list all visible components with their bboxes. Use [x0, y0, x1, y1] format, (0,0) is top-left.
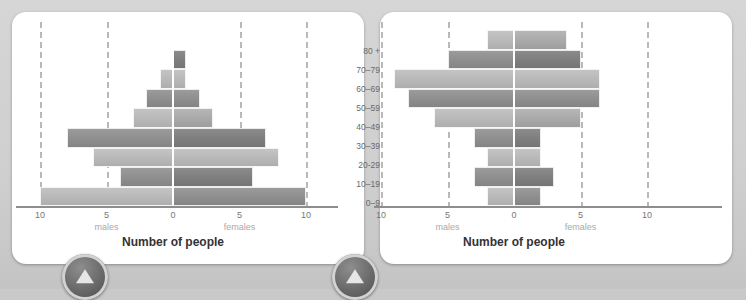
bar-male: [133, 108, 173, 128]
bar-female: [173, 69, 186, 89]
x-tick-label: 5: [220, 210, 260, 220]
bar-male: [40, 187, 173, 207]
bar-male: [474, 167, 514, 187]
x-axis-title: Number of people: [414, 235, 614, 249]
bar-female: [514, 89, 600, 109]
bar-female: [514, 187, 541, 207]
population-pyramid-right: 1050510malesfemalesNumber of people: [380, 12, 732, 264]
bar-female: [173, 108, 213, 128]
x-tick-label: 5: [561, 210, 601, 220]
bar-female: [173, 167, 253, 187]
population-pyramid-left: 1050510malesfemalesNumber of people: [12, 12, 364, 264]
bar-female: [514, 108, 581, 128]
females-label: females: [551, 222, 611, 232]
bar-male: [434, 108, 514, 128]
bar-male: [408, 89, 514, 109]
bar-male: [160, 69, 173, 89]
age-group-label: 30–39: [334, 137, 380, 156]
bar-female: [173, 187, 306, 207]
age-group-label: 70–79: [334, 61, 380, 80]
gridline: [581, 22, 583, 208]
bar-male: [67, 128, 173, 148]
bar-female: [173, 148, 279, 168]
badge-left[interactable]: [62, 254, 108, 300]
bar-female: [173, 50, 186, 70]
bar-male: [146, 89, 173, 109]
bar-female: [514, 30, 567, 50]
gridline: [40, 22, 42, 208]
bar-male: [474, 128, 514, 148]
x-tick-label: 5: [87, 210, 127, 220]
up-arrow-icon: [76, 269, 94, 283]
males-label: males: [77, 222, 137, 232]
zero-axis-line: [172, 26, 174, 206]
age-group-label: 10–19: [334, 175, 380, 194]
bar-female: [514, 50, 581, 70]
bar-male: [487, 30, 514, 50]
bar-male: [448, 50, 515, 70]
x-tick-label: 0: [153, 210, 193, 220]
x-axis-line: [374, 206, 722, 208]
x-tick-label: 10: [627, 210, 667, 220]
age-group-label: 20-29: [334, 156, 380, 175]
age-group-labels-left: 80 +70–7960–6950–5940–4930–3920-2910–190…: [334, 42, 380, 213]
bar-male: [120, 167, 173, 187]
badge-right[interactable]: [332, 254, 378, 300]
x-axis-line: [16, 206, 338, 208]
zero-axis-line: [513, 26, 515, 206]
up-arrow-icon: [346, 269, 364, 283]
bar-female: [173, 89, 200, 109]
bar-female: [173, 128, 266, 148]
chart-card-left: 1050510malesfemalesNumber of people 80 +…: [12, 12, 364, 264]
bar-male: [487, 187, 514, 207]
gridline: [107, 22, 109, 208]
chart-card-right: 1050510malesfemalesNumber of people: [380, 12, 732, 264]
bar-male: [394, 69, 514, 89]
age-group-label: 80 +: [334, 42, 380, 61]
males-label: males: [418, 222, 478, 232]
gridline: [647, 22, 649, 208]
age-group-label: 60–69: [334, 80, 380, 99]
x-tick-label: 0: [494, 210, 534, 220]
x-axis-title: Number of people: [73, 235, 273, 249]
x-tick-label: 10: [20, 210, 60, 220]
bar-female: [514, 128, 541, 148]
age-group-label: 40–49: [334, 118, 380, 137]
bar-male: [93, 148, 173, 168]
gridline: [381, 22, 383, 208]
bar-female: [514, 167, 554, 187]
x-tick-label: 10: [286, 210, 326, 220]
bar-female: [514, 69, 600, 89]
gridline: [306, 22, 308, 208]
age-group-label: 0–9: [334, 194, 380, 213]
females-label: females: [210, 222, 270, 232]
bar-female: [514, 148, 541, 168]
x-tick-label: 5: [428, 210, 468, 220]
bar-male: [487, 148, 514, 168]
age-group-label: 50–59: [334, 99, 380, 118]
